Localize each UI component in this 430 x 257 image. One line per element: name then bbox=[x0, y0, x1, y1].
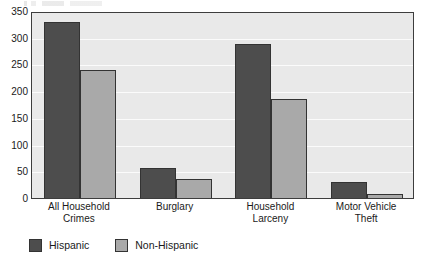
legend-item-label: Non-Hispanic bbox=[135, 239, 198, 251]
x-axis-category-labels: All HouseholdCrimesBurglaryHouseholdLarc… bbox=[31, 201, 414, 235]
x-axis-category-label-line: Theft bbox=[306, 213, 426, 225]
y-axis-tick-label: 350 bbox=[2, 7, 28, 17]
bar-non-hispanic bbox=[367, 194, 403, 198]
y-axis-tick-label: 200 bbox=[2, 87, 28, 97]
bar-non-hispanic bbox=[271, 99, 307, 198]
bar-non-hispanic bbox=[176, 179, 212, 198]
y-axis-tick-label: 300 bbox=[2, 34, 28, 44]
gridline bbox=[32, 39, 413, 40]
legend-item-hispanic[interactable]: Hispanic bbox=[29, 239, 89, 252]
legend-item-non-hispanic[interactable]: Non-Hispanic bbox=[115, 239, 198, 252]
bar-hispanic bbox=[235, 44, 271, 198]
bar-hispanic bbox=[331, 182, 367, 198]
bar-hispanic bbox=[44, 22, 80, 198]
bar-non-hispanic bbox=[80, 70, 116, 198]
legend-item-label: Hispanic bbox=[49, 239, 89, 251]
y-axis-tick-label: 50 bbox=[2, 167, 28, 177]
x-axis-category-label: Motor VehicleTheft bbox=[306, 201, 426, 225]
y-axis-tick-label: 100 bbox=[2, 141, 28, 151]
x-axis-category-label-line: Motor Vehicle bbox=[306, 201, 426, 213]
legend-swatch-icon bbox=[115, 239, 128, 252]
scan-artifact bbox=[24, 1, 174, 6]
gridline bbox=[32, 65, 413, 66]
chart-legend: HispanicNon-Hispanic bbox=[29, 237, 224, 253]
bar-hispanic bbox=[140, 168, 176, 198]
y-axis-tick-label: 250 bbox=[2, 60, 28, 70]
x-axis-category-label-line: Crimes bbox=[19, 213, 139, 225]
plot-area bbox=[31, 12, 414, 199]
legend-swatch-icon bbox=[29, 239, 42, 252]
y-axis-tick-label: 150 bbox=[2, 114, 28, 124]
bar-chart: 350300250200150100500 All HouseholdCrime… bbox=[0, 0, 430, 257]
